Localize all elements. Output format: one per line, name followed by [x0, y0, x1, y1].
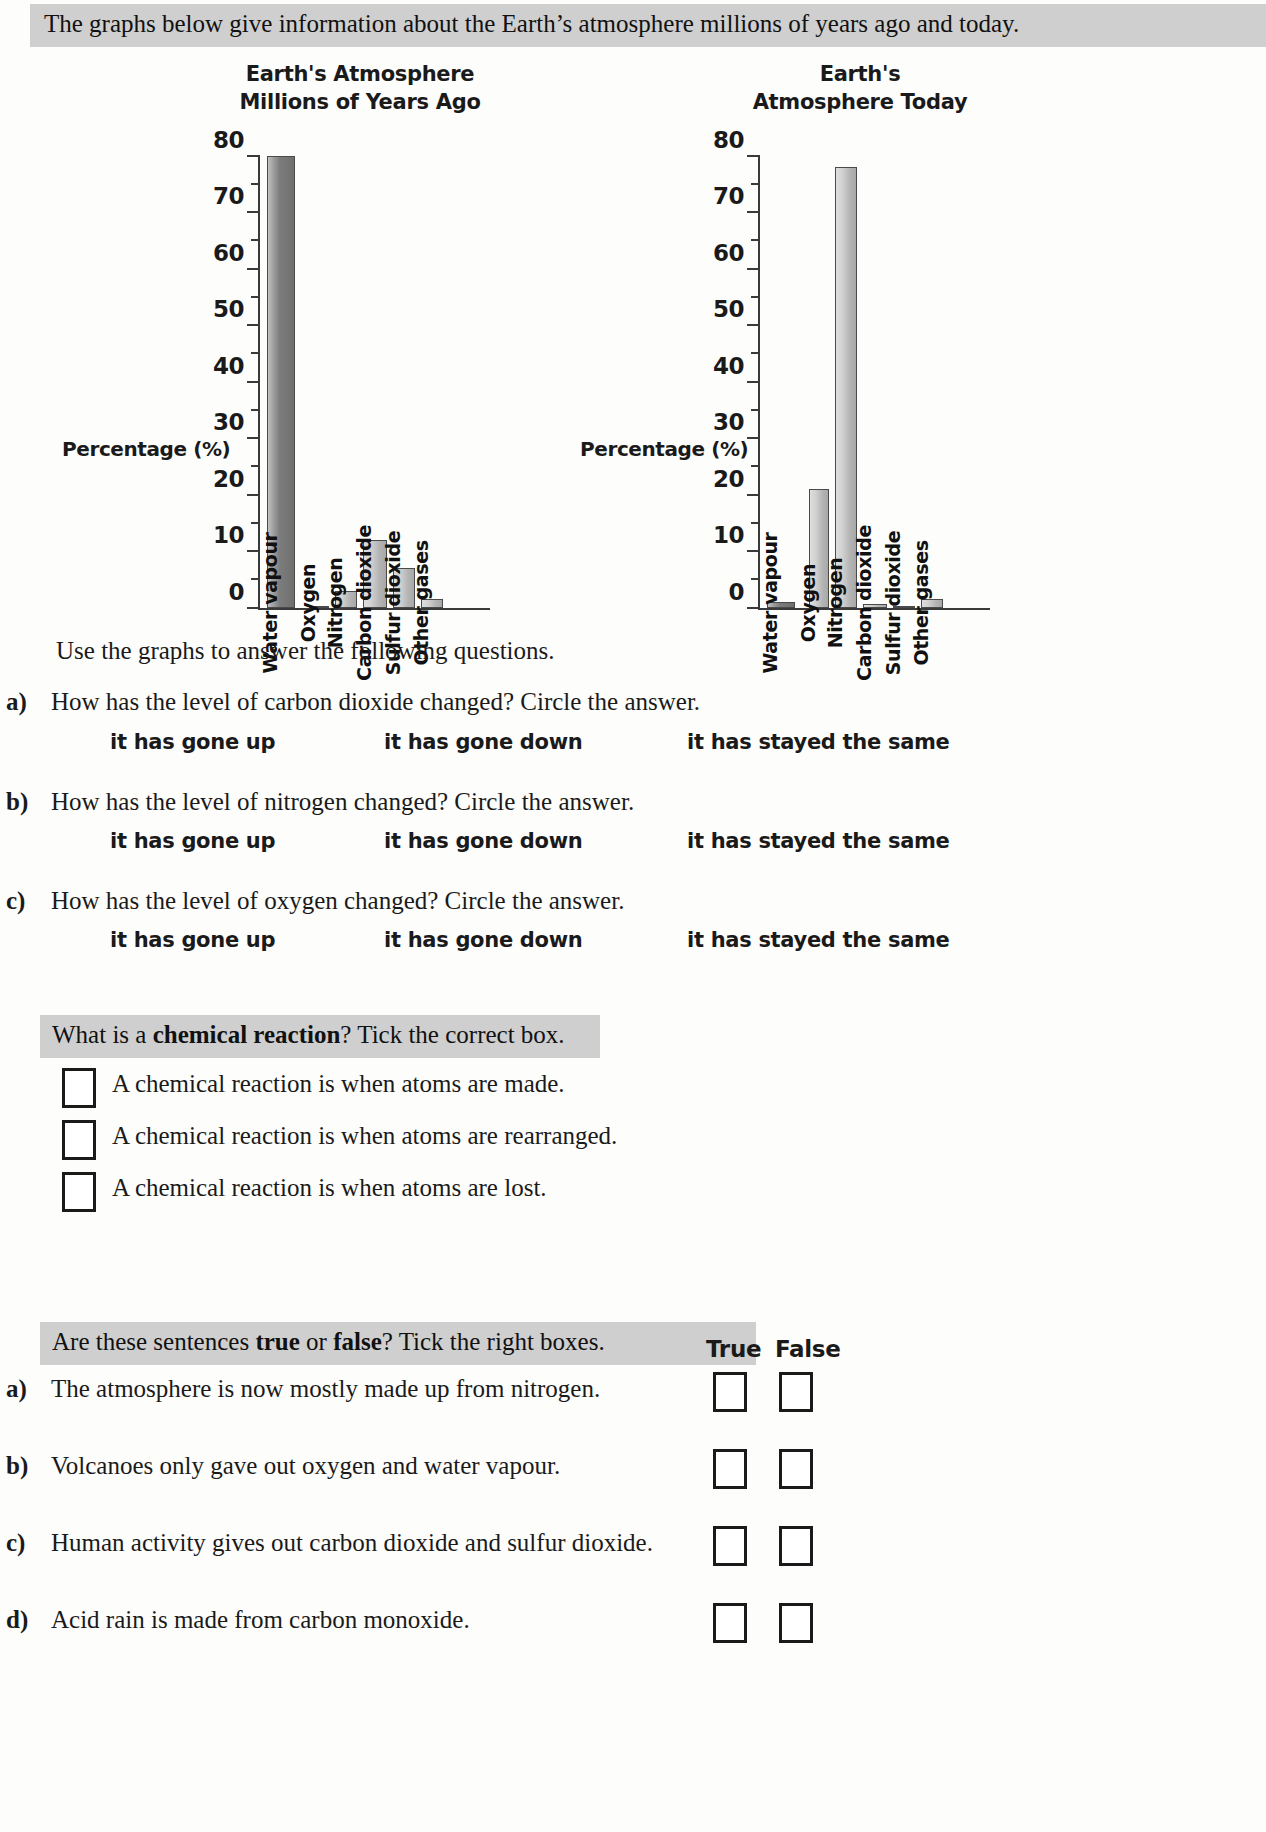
bar-sulfur-dioxide: Sulfur dioxide: [893, 606, 915, 608]
x-axis-line: [258, 608, 490, 610]
tf-row-b-text: Volcanoes only gave out oxygen and water…: [51, 1452, 560, 1480]
y-tick-label: 0: [228, 579, 244, 605]
y-tick-major: [747, 607, 758, 609]
y-tick-label: 20: [213, 466, 244, 492]
tf-row-d-marker: d): [6, 1606, 28, 1634]
y-tick-major: [747, 550, 758, 552]
tf-banner-suffix: ? Tick the right boxes.: [382, 1328, 605, 1355]
y-tick-label: 30: [713, 409, 744, 435]
bar-oxygen: Oxygen: [309, 606, 329, 608]
x-axis-line: [758, 608, 990, 610]
question-b-marker: b): [6, 788, 28, 816]
question-c-option-3[interactable]: it has stayed the same: [687, 928, 950, 952]
y-tick-label: 30: [213, 409, 244, 435]
bar-carbon-dioxide: Carbon dioxide: [863, 604, 887, 608]
chart-today: Earth's Atmosphere Today Percentage (%) …: [640, 60, 1080, 611]
y-tick-label: 10: [213, 522, 244, 548]
chemical-option-2-label: A chemical reaction is when atoms are re…: [112, 1122, 617, 1150]
y-tick-minor: [751, 183, 758, 185]
intro-text: The graphs below give information about …: [44, 10, 1019, 37]
tf-row-d-true-checkbox[interactable]: [713, 1603, 747, 1643]
y-tick-label: 50: [213, 296, 244, 322]
bar-label: Water vapour: [759, 532, 781, 673]
bar-water-vapour: Water vapour: [767, 602, 795, 608]
tf-row-a-false-checkbox[interactable]: [779, 1372, 813, 1412]
tf-row-a-true-checkbox[interactable]: [713, 1372, 747, 1412]
tf-row-b-false-checkbox[interactable]: [779, 1449, 813, 1489]
question-a-prompt: How has the level of carbon dioxide chan…: [51, 688, 700, 716]
y-tick-label: 0: [728, 579, 744, 605]
intro-banner: The graphs below give information about …: [30, 4, 1266, 47]
chemical-option-1-checkbox[interactable]: [62, 1068, 96, 1108]
question-a-option-3[interactable]: it has stayed the same: [687, 730, 950, 754]
tf-row-c-false-checkbox[interactable]: [779, 1526, 813, 1566]
y-tick-label: 80: [213, 127, 244, 153]
question-b-prompt: How has the level of nitrogen changed? C…: [51, 788, 634, 816]
question-a-marker: a): [6, 688, 27, 716]
question-a-option-2[interactable]: it has gone down: [384, 730, 582, 754]
y-tick-minor: [751, 239, 758, 241]
question-c-marker: c): [6, 887, 25, 915]
bar-other-gases: Other gases: [921, 599, 943, 607]
question-c-option-2[interactable]: it has gone down: [384, 928, 582, 952]
chart-past-ylabel: Percentage (%): [62, 437, 230, 461]
tf-row-a-text: The atmosphere is now mostly made up fro…: [51, 1375, 600, 1403]
y-tick-minor: [251, 239, 258, 241]
column-header-true: True: [706, 1336, 761, 1362]
tf-banner-bold-false: false: [333, 1328, 382, 1355]
y-tick-minor: [751, 578, 758, 580]
y-axis-line: [758, 155, 760, 610]
chemical-option-3-checkbox[interactable]: [62, 1172, 96, 1212]
y-tick-major: [747, 437, 758, 439]
y-tick-minor: [751, 465, 758, 467]
y-tick-label: 60: [713, 240, 744, 266]
tf-row-d-false-checkbox[interactable]: [779, 1603, 813, 1643]
question-c-prompt: How has the level of oxygen changed? Cir…: [51, 887, 624, 915]
y-axis-line: [258, 155, 260, 610]
y-tick-major: [247, 550, 258, 552]
y-tick-minor: [251, 578, 258, 580]
question-b-option-3[interactable]: it has stayed the same: [687, 829, 950, 853]
y-tick-minor: [251, 296, 258, 298]
question-b-option-1[interactable]: it has gone up: [110, 829, 275, 853]
y-tick-label: 40: [213, 353, 244, 379]
y-tick-label: 70: [713, 183, 744, 209]
question-b-option-2[interactable]: it has gone down: [384, 829, 582, 853]
chemical-banner-prefix: What is a: [52, 1021, 153, 1048]
question-c-option-1[interactable]: it has gone up: [110, 928, 275, 952]
tf-row-b-marker: b): [6, 1452, 28, 1480]
chemical-option-2-checkbox[interactable]: [62, 1120, 96, 1160]
y-tick-label: 40: [713, 353, 744, 379]
tf-row-c-marker: c): [6, 1529, 25, 1557]
tf-row-d-text: Acid rain is made from carbon monoxide.: [51, 1606, 470, 1634]
bar-carbon-dioxide: Carbon dioxide: [363, 540, 387, 608]
bar-sulfur-dioxide: Sulfur dioxide: [393, 568, 415, 608]
tf-row-c-text: Human activity gives out carbon dioxide …: [51, 1529, 653, 1557]
chemical-banner-bold: chemical reaction: [153, 1021, 341, 1048]
chart-today-ylabel: Percentage (%): [580, 437, 748, 461]
y-tick-label: 80: [713, 127, 744, 153]
bar-nitrogen: Nitrogen: [835, 167, 857, 608]
tf-row-b-true-checkbox[interactable]: [713, 1449, 747, 1489]
y-tick-minor: [751, 522, 758, 524]
chemical-reaction-banner: What is a chemical reaction? Tick the co…: [40, 1015, 600, 1058]
instructions-text: Use the graphs to answer the following q…: [56, 637, 555, 665]
y-tick-major: [747, 381, 758, 383]
y-tick-major: [747, 324, 758, 326]
y-tick-label: 50: [713, 296, 744, 322]
tf-banner-mid: or: [300, 1328, 333, 1355]
y-tick-major: [247, 607, 258, 609]
y-tick-major: [247, 494, 258, 496]
y-tick-minor: [751, 409, 758, 411]
question-a-option-1[interactable]: it has gone up: [110, 730, 275, 754]
tf-row-c-true-checkbox[interactable]: [713, 1526, 747, 1566]
y-tick-major: [247, 437, 258, 439]
chemical-option-1-label: A chemical reaction is when atoms are ma…: [112, 1070, 565, 1098]
y-tick-major: [247, 211, 258, 213]
bar-water-vapour: Water vapour: [267, 156, 295, 608]
y-tick-major: [247, 155, 258, 157]
y-tick-major: [247, 268, 258, 270]
y-tick-major: [747, 211, 758, 213]
bar-label: Oxygen: [797, 563, 819, 641]
bar-oxygen: Oxygen: [809, 489, 829, 608]
